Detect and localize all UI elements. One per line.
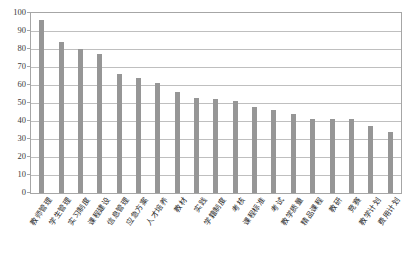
x-axis-tick-label: 教研 — [328, 196, 343, 214]
y-axis-tick-label: 30 — [18, 134, 27, 143]
bar — [233, 101, 238, 193]
y-axis: 1009080706050403020100 — [0, 0, 30, 206]
x-axis-tick-label: 教材 — [173, 196, 188, 214]
bar-series — [31, 13, 401, 193]
bar — [310, 119, 315, 193]
y-axis-tick-label: 0 — [22, 188, 26, 197]
x-axis-tick-label: 实践 — [193, 196, 208, 214]
plot-area — [30, 12, 402, 194]
y-axis-tick-label: 40 — [18, 116, 27, 125]
bar — [291, 114, 296, 193]
x-axis-tick-label: 考核 — [231, 196, 246, 214]
bar — [59, 42, 64, 193]
bar-chart: 1009080706050403020100 教师管理学生管理实习制度课程建设信… — [0, 0, 409, 264]
bar — [388, 132, 393, 193]
bar — [194, 98, 199, 193]
x-axis-tick-label: 竞赛 — [347, 196, 362, 214]
y-axis-tick-label: 50 — [18, 98, 27, 107]
bar — [39, 20, 44, 193]
y-axis-tick-label: 90 — [18, 26, 27, 35]
bar — [117, 74, 122, 193]
y-axis-tick-label: 100 — [13, 8, 26, 17]
bar — [368, 126, 373, 193]
bar — [155, 83, 160, 193]
y-axis-tick-label: 20 — [18, 152, 27, 161]
y-axis-tick-label: 80 — [18, 44, 27, 53]
bar — [252, 107, 257, 193]
bar — [271, 110, 276, 193]
y-axis-tick-label: 70 — [18, 62, 27, 71]
y-axis-tick-label: 60 — [18, 80, 27, 89]
bar — [136, 78, 141, 193]
bar — [78, 49, 83, 193]
bar — [349, 119, 354, 193]
bar — [330, 119, 335, 193]
bar — [97, 54, 102, 193]
bar — [175, 92, 180, 193]
x-axis-tick-label: 考试 — [270, 196, 285, 214]
y-axis-tick-label: 10 — [18, 170, 27, 179]
x-axis-labels: 教师管理学生管理实习制度课程建设信息管理应急方案人才培养教材实践学籍制度考核课程… — [30, 196, 402, 264]
bar — [213, 99, 218, 193]
